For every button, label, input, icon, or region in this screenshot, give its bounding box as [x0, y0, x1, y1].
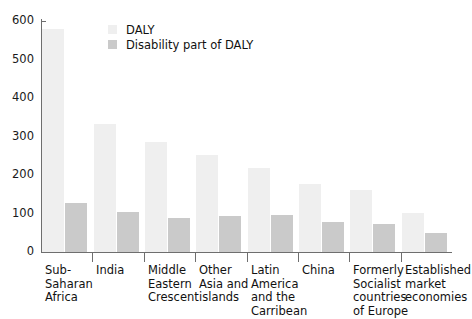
bar-disability [168, 218, 190, 252]
x-axis-separator [247, 253, 248, 262]
category-label-line: Established [405, 264, 471, 278]
category-label-line: China [302, 264, 335, 278]
legend-item: Disability part of DALY [108, 37, 253, 52]
bar-disability [271, 215, 293, 252]
bar-disability [65, 203, 87, 252]
category-label-line: Africa [45, 291, 93, 305]
y-axis-tick-label: 400 [0, 92, 34, 104]
category-label-line: economies [405, 291, 471, 305]
category-label: MiddleEasternCrescent [148, 264, 199, 305]
plot-area [41, 21, 452, 252]
x-axis-separator [401, 253, 402, 262]
category-label-line: and the [251, 291, 307, 305]
bar-chart: 0100200300400500600 DALYDisability part … [0, 0, 472, 319]
bar-daly [248, 168, 270, 252]
category-label-line: Crescent [148, 291, 199, 305]
legend-label: DALY [126, 24, 154, 36]
bar-disability [425, 233, 447, 252]
x-axis-separator [144, 253, 145, 262]
category-label: China [302, 264, 335, 278]
x-axis-separator [349, 253, 350, 262]
bar-disability [117, 212, 139, 252]
y-axis-tick-label: 100 [0, 208, 34, 220]
category-label-line: Latin [251, 264, 307, 278]
category-label-line: Asia and [199, 278, 248, 292]
bar-daly [350, 190, 372, 252]
category-label-line: islands [199, 291, 248, 305]
category-label-line: market [405, 278, 471, 292]
y-axis-tick [41, 252, 46, 253]
legend-swatch-daly [108, 25, 117, 34]
x-axis-separator [92, 253, 93, 262]
bar-daly [402, 213, 424, 252]
bar-disability [373, 224, 395, 252]
category-label: India [96, 264, 124, 278]
y-axis-tick-label: 0 [0, 246, 34, 258]
category-label-line: Sub- [45, 264, 93, 278]
category-label-line: America [251, 278, 307, 292]
category-label-line: Middle [148, 264, 199, 278]
bar-daly [145, 142, 167, 252]
bar-disability [322, 222, 344, 252]
x-axis-separator [298, 253, 299, 262]
category-label: Establishedmarketeconomies [405, 264, 471, 305]
category-label-line: Other [199, 264, 248, 278]
category-label-line: of Europe [353, 305, 408, 319]
bar-daly [42, 29, 64, 252]
category-label-line: Carribean [251, 305, 307, 319]
category-label-line: Saharan [45, 278, 93, 292]
category-label-line: countries [353, 291, 408, 305]
category-label-line: Socialist [353, 278, 408, 292]
category-label-line: Eastern [148, 278, 199, 292]
legend-swatch-disability [108, 40, 117, 49]
bar-daly [94, 124, 116, 252]
category-label-line: India [96, 264, 124, 278]
category-label: Sub-SaharanAfrica [45, 264, 93, 305]
category-label: LatinAmericaand theCarribean [251, 264, 307, 318]
category-label: OtherAsia andislands [199, 264, 248, 305]
y-axis-tick-label: 600 [0, 15, 34, 27]
category-label: FormerlySocialistcountriesof Europe [353, 264, 408, 318]
y-axis-tick-label: 300 [0, 131, 34, 143]
x-axis-separator [195, 253, 196, 262]
bar-daly [299, 184, 321, 252]
legend-item: DALY [108, 22, 253, 37]
chart-legend: DALYDisability part of DALY [108, 22, 253, 52]
bar-daly [196, 155, 218, 252]
y-axis-tick-label: 500 [0, 54, 34, 66]
category-label-line: Formerly [353, 264, 408, 278]
legend-label: Disability part of DALY [126, 39, 253, 51]
bar-disability [219, 216, 241, 252]
y-axis-tick-label: 200 [0, 169, 34, 181]
